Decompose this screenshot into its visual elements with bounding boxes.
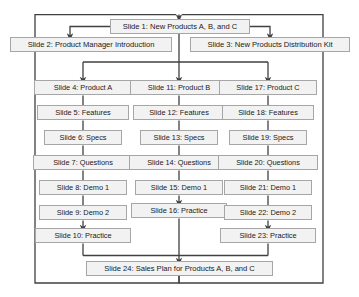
node-slide-21[interactable]: Slide 21: Demo 1 (224, 180, 312, 195)
node-slide-9[interactable]: Slide 9: Demo 2 (39, 205, 127, 220)
node-slide-2[interactable]: Slide 2: Product Manager Introduction (10, 37, 172, 52)
node-slide-12-label: Slide 12: Features (149, 109, 209, 116)
node-slide-23-label: Slide 23: Practice (239, 232, 296, 239)
node-slide-17-label: Slide 17: Product C (236, 84, 299, 91)
node-slide-24[interactable]: Slide 24: Sales Plan for Products A, B, … (86, 261, 273, 276)
node-slide-13-label: Slide 13: Specs (153, 134, 204, 141)
node-slide-3[interactable]: Slide 3: New Products Distribution Kit (190, 37, 350, 52)
flowchart-canvas: Slide 1: New Products A, B, and C Slide … (0, 0, 359, 297)
node-slide-7-label: Slide 7: Questions (53, 159, 113, 166)
node-slide-15[interactable]: Slide 15: Demo 1 (135, 180, 223, 195)
node-slide-23[interactable]: Slide 23: Practice (220, 228, 316, 243)
node-slide-16-label: Slide 16: Practice (150, 207, 207, 214)
arrow-slide1-to-slide2 (70, 27, 110, 38)
node-slide-11[interactable]: Slide 11: Product B (130, 80, 228, 95)
node-slide-6-label: Slide 6: Specs (60, 134, 107, 141)
node-slide-15-label: Slide 15: Demo 1 (151, 184, 207, 191)
node-slide-14[interactable]: Slide 14: Questions (129, 155, 229, 170)
node-slide-20-label: Slide 20: Questions (236, 159, 300, 166)
node-slide-3-label: Slide 3: New Products Distribution Kit (207, 41, 332, 49)
node-slide-7[interactable]: Slide 7: Questions (33, 155, 133, 170)
node-slide-22[interactable]: Slide 22: Demo 2 (224, 205, 312, 220)
node-slide-20[interactable]: Slide 20: Questions (218, 155, 318, 170)
node-slide-17[interactable]: Slide 17: Product C (219, 80, 317, 95)
node-slide-24-label: Slide 24: Sales Plan for Products A, B, … (104, 265, 255, 273)
node-slide-4[interactable]: Slide 4: Product A (34, 80, 132, 95)
node-slide-8[interactable]: Slide 8: Demo 1 (39, 180, 127, 195)
node-slide-9-label: Slide 9: Demo 2 (57, 209, 109, 216)
node-slide-11-label: Slide 11: Product B (148, 84, 210, 91)
node-slide-10-label: Slide 10: Practice (54, 232, 111, 239)
node-slide-6[interactable]: Slide 6: Specs (44, 130, 122, 145)
node-slide-8-label: Slide 8: Demo 1 (57, 184, 109, 191)
node-slide-2-label: Slide 2: Product Manager Introduction (28, 41, 155, 49)
node-slide-4-label: Slide 4: Product A (54, 84, 112, 91)
node-slide-13[interactable]: Slide 13: Specs (140, 130, 218, 145)
node-slide-1-label: Slide 1: New Products A, B, and C (123, 23, 238, 31)
node-slide-19-label: Slide 19: Specs (242, 134, 293, 141)
node-slide-16[interactable]: Slide 16: Practice (131, 203, 227, 218)
node-slide-18-label: Slide 18: Features (238, 109, 298, 116)
node-slide-18[interactable]: Slide 18: Features (222, 105, 314, 120)
node-slide-5-label: Slide 5: Features (55, 109, 111, 116)
node-slide-1[interactable]: Slide 1: New Products A, B, and C (110, 19, 250, 34)
node-slide-12[interactable]: Slide 12: Features (133, 105, 225, 120)
node-slide-10[interactable]: Slide 10: Practice (35, 228, 131, 243)
node-slide-5[interactable]: Slide 5: Features (37, 105, 129, 120)
node-slide-19[interactable]: Slide 19: Specs (229, 130, 307, 145)
node-slide-22-label: Slide 22: Demo 2 (240, 209, 296, 216)
node-slide-21-label: Slide 21: Demo 1 (240, 184, 296, 191)
node-slide-14-label: Slide 14: Questions (147, 159, 211, 166)
arrow-slide1-to-slide3 (250, 27, 270, 38)
